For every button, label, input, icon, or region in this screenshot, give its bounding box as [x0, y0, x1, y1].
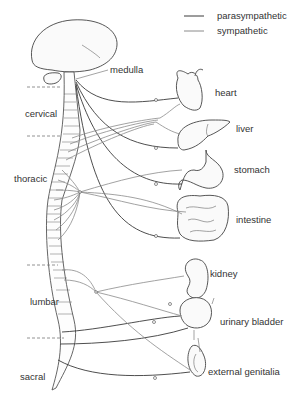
heart	[176, 69, 203, 110]
urinary-bladder	[180, 298, 214, 340]
organ-label-liver: liver	[236, 123, 253, 134]
region-label-thoracic: thoracic	[14, 173, 48, 184]
region-label-cervical: cervical	[25, 108, 57, 119]
autonomic-nervous-system-diagram: parasympathetic sympathetic medulla	[0, 0, 299, 406]
organ-label-urinary-bladder: urinary bladder	[220, 316, 283, 327]
organ-label-external-genitalia: external genitalia	[208, 366, 281, 377]
organ-label-stomach: stomach	[234, 164, 270, 175]
legend-parasympathetic-label: parasympathetic	[217, 10, 287, 21]
region-label-sacral: sacral	[20, 371, 45, 382]
region-label-lumbar: lumbar	[30, 296, 59, 307]
sympathetic-ganglia	[79, 191, 98, 294]
intestine	[177, 195, 228, 241]
kidney	[185, 259, 208, 298]
external-genitalia	[188, 338, 206, 376]
stomach	[179, 150, 223, 190]
parasympathetic-ganglia	[153, 99, 172, 380]
organ-label-intestine: intestine	[236, 214, 271, 225]
legend-sympathetic-label: sympathetic	[217, 25, 268, 36]
spinal-cord	[46, 72, 80, 390]
medulla-label: medulla	[110, 64, 144, 75]
legend: parasympathetic sympathetic	[184, 10, 287, 36]
organ-label-heart: heart	[215, 87, 237, 98]
organ-label-kidney: kidney	[210, 268, 238, 279]
liver	[178, 120, 230, 150]
